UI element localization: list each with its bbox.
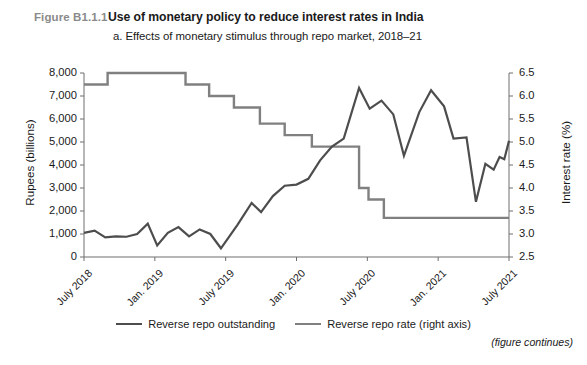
- y-axis-left-tick-label: 8,000: [31, 66, 77, 78]
- y-axis-left-tick-label: 7,000: [31, 89, 77, 101]
- y-axis-right-tick-label: 2.5: [519, 250, 565, 262]
- legend-item[interactable]: Reverse repo outstanding: [116, 318, 275, 330]
- y-axis-left-title: Rupees (billions): [23, 98, 36, 228]
- figure-panel: Figure B1.1.1 Use of monetary policy to …: [0, 0, 587, 365]
- chart-canvas: [0, 0, 587, 365]
- y-axis-left-tick-label: 6,000: [31, 112, 77, 124]
- y-axis-right-title: Interest rate (%): [559, 98, 572, 228]
- legend-line-swatch: [295, 323, 321, 326]
- chart-series: [84, 73, 509, 248]
- y-axis-left-tick-label: 1,000: [31, 227, 77, 239]
- legend-label: Reverse repo outstanding: [148, 318, 275, 330]
- y-axis-right-tick-label: 6.5: [519, 66, 565, 78]
- chart-axes: [80, 73, 513, 261]
- plot-area: 01,0002,0003,0004,0005,0006,0007,0008,00…: [0, 0, 587, 365]
- legend-line-swatch: [116, 323, 142, 326]
- y-axis-left-tick-label: 2,000: [31, 204, 77, 216]
- legend-label: Reverse repo rate (right axis): [327, 318, 471, 330]
- legend-item[interactable]: Reverse repo rate (right axis): [295, 318, 471, 330]
- figure-continues-note: (figure continues): [491, 336, 573, 348]
- chart-legend: Reverse repo outstandingReverse repo rat…: [0, 318, 587, 330]
- y-axis-right-tick-label: 3.0: [519, 227, 565, 239]
- y-axis-left-tick-label: 5,000: [31, 135, 77, 147]
- y-axis-left-tick-label: 0: [31, 250, 77, 262]
- y-axis-left-tick-label: 3,000: [31, 181, 77, 193]
- y-axis-left-tick-label: 4,000: [31, 158, 77, 170]
